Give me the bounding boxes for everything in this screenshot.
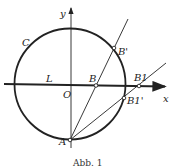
label-l: L [45,73,53,84]
label-c: C [22,37,30,48]
point-a [68,138,72,142]
label-y: y [59,8,66,19]
line-a-b1 [70,63,166,140]
figure-caption: Abb. 1 [72,158,102,168]
point-b1 [137,84,141,88]
point-b1-prime [122,96,126,100]
point-b-prime [112,46,116,50]
label-o: O [63,89,71,100]
geometry-diagram: y x C L O A B B' B1 B1' Abb. 1 [0,0,171,168]
label-b1: B1 [133,72,148,83]
label-b-prime: B' [117,46,128,57]
label-b: B [88,73,96,84]
diagram-figure: y x C L O A B B' B1 B1' Abb. 1 [0,0,171,168]
point-b [94,84,98,88]
label-b1-prime: B1' [126,95,143,106]
label-a: A [58,136,66,147]
label-x: x [163,93,169,104]
